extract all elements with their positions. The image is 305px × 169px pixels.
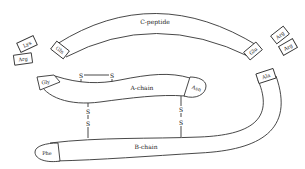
sulfur-atom: S	[179, 106, 183, 113]
sulfur-atom: S	[86, 108, 90, 115]
c-peptide-inner-edge	[66, 34, 250, 58]
disulfide-intra-a: S S	[79, 72, 114, 82]
residue-arg-right-1: Arg	[271, 26, 290, 44]
sulfur-atom: S	[110, 72, 114, 79]
b-chain: Ala Phe B-chain	[35, 68, 281, 161]
disulfide-inter-2: S S	[179, 96, 183, 137]
c-peptide-label: C-peptide	[140, 18, 170, 26]
disulfide-inter-1: S S	[86, 103, 90, 138]
b-chain-outer-edge	[55, 76, 281, 161]
residue-ala: Ala	[256, 68, 276, 83]
residue-phe-label: Phe	[42, 150, 52, 156]
sulfur-atom: S	[86, 120, 90, 127]
residue-glu: Glu	[244, 42, 263, 60]
residue-arg-right-2: Arg	[279, 39, 298, 56]
b-chain-inner-edge	[50, 80, 263, 143]
a-chain-top-edge	[55, 74, 190, 82]
residue-lys: Lys	[17, 36, 38, 53]
proinsulin-diagram: C-peptide Gln Glu Lys Arg Arg Arg Gly	[0, 0, 305, 169]
residue-arg-left: Arg	[13, 53, 32, 65]
b-chain-label: B-chain	[134, 143, 157, 150]
a-chain-bottom-edge	[38, 80, 185, 103]
sulfur-atom: S	[179, 119, 183, 126]
c-peptide: C-peptide Gln Glu	[51, 13, 263, 59]
a-chain-label: A-chain	[130, 84, 154, 91]
sulfur-atom: S	[79, 72, 83, 79]
